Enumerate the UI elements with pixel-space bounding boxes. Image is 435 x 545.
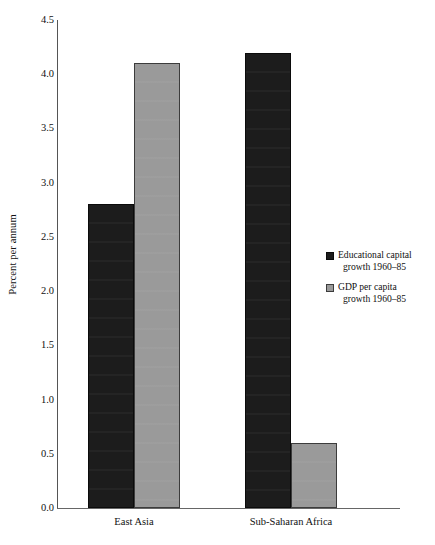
y-axis-tick-label: 4.0 [41,69,54,80]
y-axis-tick-label: 0.0 [41,503,54,514]
x-axis-line [57,508,400,509]
bar [291,443,337,508]
y-axis-tick-label: 3.0 [41,177,54,188]
x-axis-category-label: East Asia [114,516,153,527]
legend-swatch-icon [326,252,334,260]
bar [245,53,291,508]
bar-chart: Percent per annum 4.54.03.53.02.52.01.51… [0,0,435,545]
y-axis-tick-label: 0.5 [41,449,54,460]
bar [88,204,134,508]
y-axis-title: Percent per annum [0,0,24,508]
y-axis-tick-labels: 4.54.03.53.02.52.01.51.00.50.0 [22,0,54,545]
legend-entry: Educational capitalgrowth 1960–85 [326,249,435,272]
legend-label: GDP per capitagrowth 1960–85 [338,281,406,304]
bar [134,63,180,508]
x-axis-category-label: Sub-Saharan Africa [250,516,333,527]
y-axis-tick-label: 3.5 [41,123,54,134]
legend-label-line2: growth 1960–85 [338,293,406,305]
y-axis-tick-label: 2.0 [41,286,54,297]
legend-entry: GDP per capitagrowth 1960–85 [326,281,435,304]
y-axis-tick-label: 4.5 [41,15,54,26]
y-axis-title-text: Percent per annum [7,214,18,294]
y-axis-tick-label: 2.5 [41,232,54,243]
y-axis-tick-label: 1.0 [41,394,54,405]
legend-swatch-icon [326,284,334,292]
chart-legend: Educational capitalgrowth 1960–85GDP per… [326,249,435,313]
y-axis-tick-label: 1.5 [41,340,54,351]
legend-label-line2: growth 1960–85 [338,261,412,273]
legend-label: Educational capitalgrowth 1960–85 [338,249,412,272]
